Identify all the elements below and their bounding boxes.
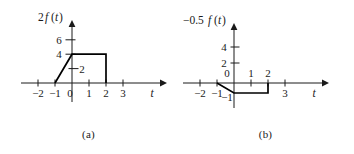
chart-panel-a: −2 −1 0 1 2 3 2 4 6 2 f ( t ) t (a) — [0, 0, 177, 154]
y-tick-label-a-2: 2 — [79, 63, 85, 75]
y-axis-label-b-paren-close: ) — [222, 14, 226, 27]
figure-container: −2 −1 0 1 2 3 2 4 6 2 f ( t ) t (a) — [0, 0, 354, 154]
panel-caption-a: (a) — [0, 128, 177, 140]
y-axis-label-a-paren-close: ) — [59, 11, 63, 24]
x-tick-label-a-0: −2 — [32, 87, 44, 99]
y-tick-label-a-6: 6 — [56, 34, 62, 46]
y-axis-label-a-coefficient: 2 — [38, 11, 44, 23]
x-tick-label-b-4: 3 — [282, 87, 288, 99]
x-tick-label-a-5: 3 — [120, 87, 126, 99]
x-tick-label-a-2: 0 — [67, 87, 73, 99]
x-axis-a — [21, 80, 167, 87]
panel-caption-b: (b) — [177, 128, 354, 140]
y-tick-label-a-4: 4 — [56, 48, 62, 60]
x-tick-label-a-1: −1 — [49, 87, 61, 99]
y-tick-label-b-m1: −1 — [221, 91, 233, 103]
x-axis-label-a: t — [150, 87, 154, 99]
y-axis-label-b-coefficient: −0.5 — [183, 14, 204, 26]
x-tick-label-b-2: 1 — [248, 67, 254, 79]
y-ticks-b — [231, 47, 240, 63]
y-axis-label-a-function: f — [45, 11, 50, 24]
x-tick-label-a-3: 1 — [86, 87, 92, 99]
x-tick-label-b-3: 2 — [265, 67, 271, 79]
x-tick-label-b-0: −2 — [194, 87, 206, 99]
x-tick-label-a-4: 2 — [103, 87, 109, 99]
y-axis-label-b-function: f — [208, 14, 213, 27]
chart-panel-b: −2 −1 1 2 3 0 −1 2 4 −0.5 f ( t ) t (b) — [177, 0, 354, 154]
y-tick-label-b-4: 4 — [221, 41, 227, 53]
x-axis-label-b: t — [312, 87, 316, 99]
y-axis-label-a: 2 f ( t ) — [38, 11, 63, 24]
y-axis-label-b: −0.5 f ( t ) — [183, 14, 226, 27]
y-tick-label-b-2: 2 — [221, 57, 227, 69]
x-axis-b — [183, 80, 329, 87]
